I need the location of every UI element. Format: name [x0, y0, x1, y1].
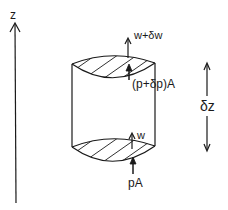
z-axis-label: z: [10, 8, 16, 22]
z-axis: [10, 23, 20, 203]
fluid-element-diagram: z w+δw: [0, 0, 228, 210]
arrowhead-up-icon: [126, 64, 132, 71]
top-weight-arrow: [125, 38, 131, 58]
height-dimension-label: δz: [200, 98, 215, 114]
bottom-weight-label: w: [136, 129, 145, 141]
bottom-face-hatched: [60, 128, 185, 177]
bottom-pressure-label: pA: [128, 176, 143, 190]
top-pressure-label: (p+δp)A: [132, 77, 175, 91]
bottom-pressure-arrow: [130, 157, 136, 174]
top-weight-label: w+δw: [133, 29, 162, 41]
